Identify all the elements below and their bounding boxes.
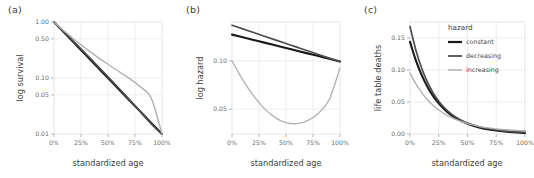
panel-b-yaxis-title: log hazard (195, 56, 205, 99)
legend-label-constant: constant (466, 38, 494, 46)
a-xtick-label: 50% (101, 139, 115, 146)
a-ytick-label: 0.10 (35, 74, 49, 81)
panel-b-plot: 0%25%50%75%100% 0.100.05 standardized ag… (178, 0, 356, 178)
b-xtick-label: 25% (252, 139, 266, 146)
panel-c-plot: 0%25%50%75%100% 0.000.050.100.15 standar… (356, 0, 534, 178)
legend-item-increasing[interactable]: increasing (448, 66, 499, 74)
b-xtick-label: 75% (306, 139, 320, 146)
panel-a-xaxis-title: standardized age (73, 158, 144, 168)
a-ytick-label: 0.05 (35, 91, 49, 98)
a-xtick-label: 0% (49, 139, 59, 146)
a-ytick-label: 1.00 (35, 18, 49, 25)
c-ytick-label: 0.00 (391, 130, 405, 137)
legend-label-increasing: increasing (466, 66, 499, 74)
legend-label-decreasing: decreasing (466, 52, 501, 60)
a-ytick-label: 0.50 (35, 35, 49, 42)
b-xtick-label: 100% (331, 139, 349, 146)
legend-item-constant[interactable]: constant (448, 38, 494, 46)
legend: hazard constant decreasing increasing (448, 23, 501, 74)
c-ytick-label: 0.15 (391, 34, 405, 41)
a-xtick-label: 75% (128, 139, 142, 146)
legend-item-decreasing[interactable]: decreasing (448, 52, 501, 60)
c-xtick-label: 25% (432, 139, 446, 146)
c-xtick-label: 100% (516, 139, 534, 146)
figure-container: (a) 0%25%50%75%100% 1.000.500.100.050.01… (0, 0, 534, 178)
c-ytick-label: 0.10 (391, 66, 405, 73)
panel-a-yaxis-title: log survival (15, 54, 25, 101)
b-ytick-label: 0.10 (213, 57, 227, 64)
a-ytick-label: 0.01 (35, 130, 49, 137)
panel-a: (a) 0%25%50%75%100% 1.000.500.100.050.01… (0, 0, 178, 178)
a-xtick-label: 100% (153, 139, 171, 146)
c-xtick-label: 0% (405, 139, 415, 146)
b-xtick-label: 50% (279, 139, 293, 146)
c-xtick-label: 50% (461, 139, 475, 146)
panel-b-xaxis-title: standardized age (251, 158, 322, 168)
panel-c-yaxis-title: life table deaths (373, 45, 383, 111)
b-xtick-label: 0% (227, 139, 237, 146)
legend-title: hazard (448, 23, 473, 32)
panel-a-plot: 0%25%50%75%100% 1.000.500.100.050.01 sta… (0, 0, 178, 178)
panel-c: (c) 0%25%50%75%100% 0.000.050.100.15 sta… (356, 0, 534, 178)
a-xtick-label: 25% (74, 139, 88, 146)
panel-c-xaxis-title: standardized age (432, 158, 503, 168)
b-ytick-label: 0.05 (213, 105, 227, 112)
panel-b: (b) 0%25%50%75%100% 0.100.05 standardize… (178, 0, 356, 178)
c-ytick-label: 0.05 (391, 98, 405, 105)
c-xtick-label: 75% (489, 139, 503, 146)
